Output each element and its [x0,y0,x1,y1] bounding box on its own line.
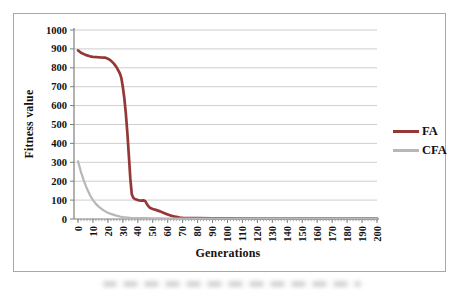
y-tick-label: 800 [51,62,67,73]
chart-figure: 0100200300400500600700800900100001020304… [0,0,467,290]
y-tick-label: 100 [51,195,67,206]
chart-legend: FA CFA [393,125,447,157]
x-tick-label: 50 [147,226,158,237]
x-tick-label: 90 [207,226,218,237]
y-tick-label: 400 [51,138,67,149]
x-tick-label: 160 [312,226,323,242]
x-tick-label: 20 [103,226,114,237]
x-tick-label: 190 [357,226,368,242]
x-tick-label: 0 [73,226,84,231]
y-tick-label: 600 [51,100,67,111]
x-tick-label: 40 [132,226,143,237]
y-axis-title: Fitness value [22,90,37,159]
x-tick-label: 180 [342,226,353,242]
y-tick-label: 900 [51,43,67,54]
x-tick-label: 130 [267,226,278,242]
y-tick-label: 700 [51,81,67,92]
x-tick-label: 10 [88,226,99,237]
y-tick-label: 1000 [46,25,67,36]
x-tick-label: 110 [237,226,248,241]
legend-label-fa: FA [422,125,438,138]
legend-line-cfa-icon [393,149,419,152]
y-tick-label: 0 [62,214,67,225]
x-axis-title: Generations [196,246,261,261]
x-tick-label: 150 [297,226,308,242]
series-line-cfa [78,161,377,218]
legend-entry-fa: FA [393,125,447,138]
x-tick-label: 30 [118,226,129,237]
legend-label-cfa: CFA [422,144,447,157]
legend-line-fa-icon [393,130,419,133]
y-tick-label: 300 [51,157,67,168]
legend-entry-cfa: CFA [393,144,447,157]
y-tick-label: 200 [51,176,67,187]
x-tick-label: 200 [372,226,383,242]
x-tick-label: 80 [192,226,203,237]
x-tick-label: 140 [282,226,293,242]
x-tick-label: 120 [252,226,263,242]
series-line-fa [78,50,377,218]
y-tick-label: 500 [51,119,67,130]
x-tick-label: 70 [177,226,188,237]
x-tick-label: 170 [327,226,338,242]
x-tick-label: 60 [162,226,173,237]
x-tick-label: 100 [222,226,233,242]
cropped-caption-artifact [103,281,361,287]
